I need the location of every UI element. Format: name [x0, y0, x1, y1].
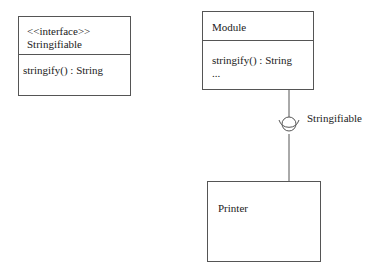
provided-interface-ball-icon — [282, 117, 296, 131]
interface-operation: stringify() : String — [23, 64, 103, 77]
printer-name: Printer — [218, 202, 248, 215]
module-divider — [203, 40, 313, 41]
module-operation: stringify() : String — [212, 54, 292, 67]
connector-label: Stringifiable — [307, 112, 362, 125]
interface-name: Stringifiable — [27, 38, 82, 51]
module-operation-ellipsis: ... — [212, 67, 220, 80]
module-class-box[interactable]: Module stringify() : String ... — [202, 11, 314, 90]
interface-stringifiable-box[interactable]: <<interface>> Stringifiable stringify() … — [18, 16, 131, 96]
printer-class-box[interactable]: Printer — [207, 181, 321, 262]
interface-divider — [19, 54, 130, 55]
interface-stereotype: <<interface>> — [27, 25, 90, 38]
module-name: Module — [212, 21, 246, 34]
